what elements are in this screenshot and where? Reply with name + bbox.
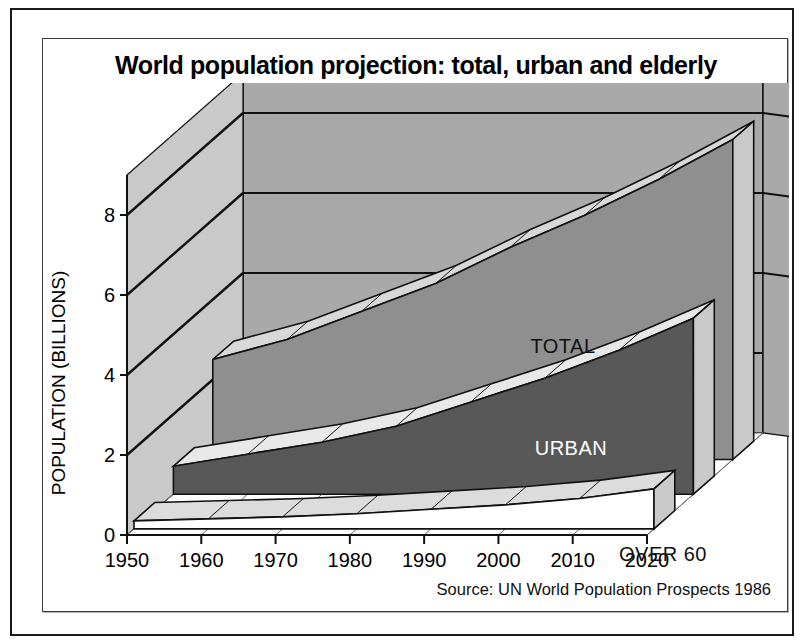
- x-axis-ticks: 19501960197019801990200020102020: [105, 535, 670, 571]
- y-tick-label: 2: [104, 444, 115, 466]
- x-tick-label: 1960: [179, 549, 224, 571]
- y-axis-title: POPULATION (BILLIONS): [48, 271, 69, 496]
- outer-frame: World population projection: total, urba…: [10, 8, 794, 636]
- plot-area: 02468 19501960197019801990200020102020 P…: [43, 83, 789, 583]
- x-tick-label: 1980: [328, 549, 373, 571]
- x-tick-label: 2010: [550, 549, 595, 571]
- screenshot-root: World population projection: total, urba…: [0, 0, 804, 644]
- series-label-total: TOTAL: [530, 335, 595, 357]
- series-label-urban: URBAN: [535, 437, 608, 459]
- y-tick-label: 6: [104, 284, 115, 306]
- y-axis-ticks: 02468: [104, 204, 127, 546]
- x-tick-label: 1990: [402, 549, 447, 571]
- y-tick-label: 4: [104, 364, 115, 386]
- chart-panel: World population projection: total, urba…: [42, 38, 788, 612]
- right-wall: [763, 83, 789, 439]
- x-tick-label: 2000: [476, 549, 521, 571]
- x-tick-label: 1970: [253, 549, 298, 571]
- y-tick-label: 8: [104, 204, 115, 226]
- y-tick-label: 0: [104, 524, 115, 546]
- source-note: Source: UN World Population Prospects 19…: [437, 580, 771, 599]
- page-title: World population projection: total, urba…: [43, 51, 789, 80]
- x-tick-label: 1950: [105, 549, 150, 571]
- series-label-over60: OVER 60: [619, 543, 707, 565]
- chart-svg: 02468 19501960197019801990200020102020 P…: [43, 83, 789, 583]
